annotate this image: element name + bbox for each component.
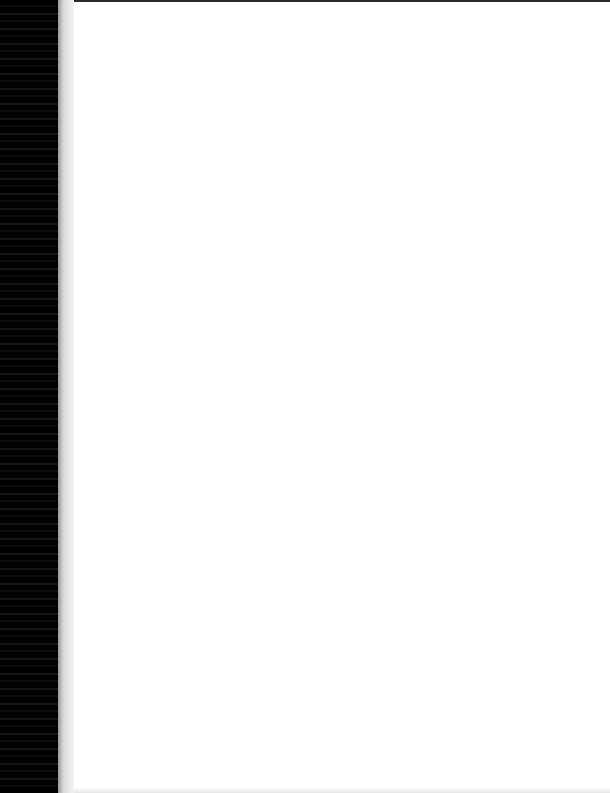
blank-page [74, 0, 610, 793]
page-bottom-edge [74, 787, 610, 793]
scan-background [0, 0, 62, 793]
